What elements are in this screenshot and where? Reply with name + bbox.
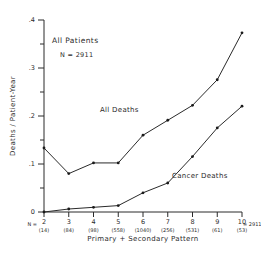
group-count-6: (1040) — [135, 227, 152, 233]
x-tick-label-7: 7 — [166, 218, 170, 226]
x-axis-title: Primary + Secondary Pattern — [87, 235, 198, 243]
chart-figure: 0 .1 .2 .3 .4 Deaths / Patient-Year 2345… — [0, 0, 261, 254]
data-point — [241, 31, 244, 34]
x-tick-label-6: 6 — [141, 218, 145, 226]
annotation-n-total: N = 2911 — [60, 51, 93, 59]
data-point — [216, 127, 219, 130]
y-tick-label-3: .3 — [29, 64, 35, 72]
x-tick-label-4: 4 — [91, 218, 95, 226]
data-point — [241, 105, 244, 108]
y-tick-label-1: .1 — [29, 160, 35, 168]
x-tick-label-3: 3 — [67, 218, 71, 226]
data-point — [216, 78, 219, 81]
data-point — [142, 191, 145, 194]
data-point — [43, 147, 46, 150]
counts-total-label: = 2911 — [243, 221, 261, 227]
data-point — [191, 104, 194, 107]
group-count-4: (98) — [88, 227, 98, 233]
data-point — [67, 208, 70, 211]
x-tick-group — [44, 212, 242, 217]
x-tick-label-9: 9 — [215, 218, 219, 226]
data-point — [67, 172, 70, 175]
y-tick-label-0: 0 — [31, 208, 35, 216]
data-point — [92, 162, 95, 165]
series-label-all-deaths: All Deaths — [100, 106, 139, 114]
y-tick-label-2: .2 — [29, 112, 35, 120]
data-point — [166, 119, 169, 122]
data-point — [43, 211, 46, 214]
data-point — [117, 204, 120, 207]
line-chart-plot: 0 .1 .2 .3 .4 Deaths / Patient-Year 2345… — [0, 0, 261, 254]
data-point — [142, 134, 145, 137]
counts-prefix-label: N = — [27, 221, 37, 227]
group-count-2: (14) — [39, 227, 49, 233]
x-tick-label-2: 2 — [42, 218, 46, 226]
data-point — [92, 206, 95, 209]
y-axis-title: Deaths / Patient-Year — [9, 76, 17, 156]
x-tick-label-5: 5 — [116, 218, 120, 226]
x-tick-label-group: 2345678910 — [42, 218, 246, 226]
annotation-all-patients: All Patients — [52, 36, 99, 45]
group-count-10: (53) — [237, 227, 247, 233]
y-tick-label-4: .4 — [29, 16, 35, 24]
series-line-cancer-deaths — [44, 106, 242, 212]
x-tick-label-8: 8 — [190, 218, 194, 226]
data-point — [117, 162, 120, 165]
data-point — [191, 155, 194, 158]
group-count-row: (14)(84)(98)(558)(1040)(256)(531)(61)(53… — [39, 227, 247, 233]
series-markers-cancer-deaths — [43, 105, 244, 214]
group-count-8: (531) — [186, 227, 199, 233]
group-count-7: (256) — [161, 227, 174, 233]
group-count-5: (558) — [112, 227, 125, 233]
series-label-cancer-deaths: Cancer Deaths — [172, 172, 228, 180]
group-count-3: (84) — [64, 227, 74, 233]
data-point — [166, 182, 169, 185]
group-count-9: (61) — [212, 227, 222, 233]
